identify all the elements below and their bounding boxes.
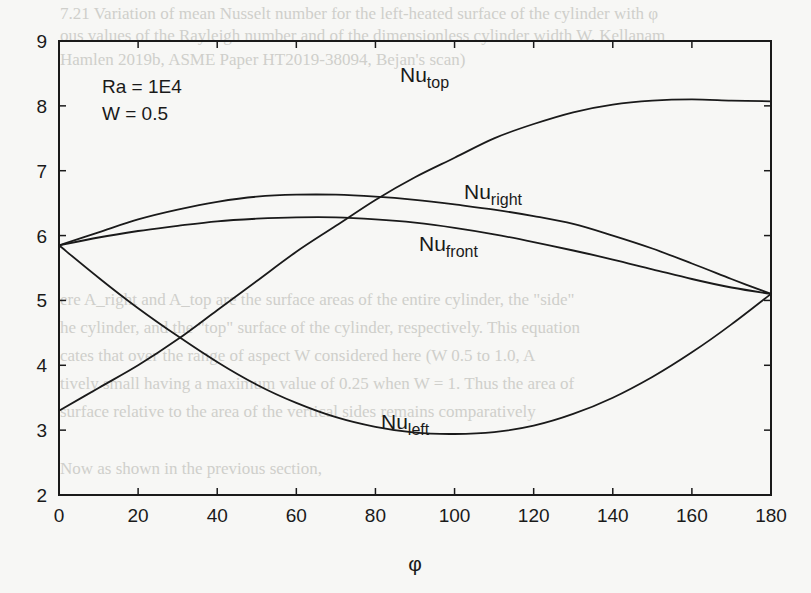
x-tick-label: 100 [439, 505, 471, 526]
y-tick-label: 4 [36, 355, 47, 376]
x-tick-label: 80 [365, 505, 386, 526]
series-label-nu-top: Nutop [400, 63, 449, 91]
series-line-nu-front [59, 217, 771, 294]
y-tick-label: 3 [36, 420, 47, 441]
series-line-nu-left [59, 245, 771, 434]
x-tick-label: 20 [128, 505, 149, 526]
annotation-ra: Ra = 1E4 [102, 76, 182, 97]
annotation-w: W = 0.5 [102, 103, 168, 124]
x-tick-label: 160 [676, 505, 708, 526]
x-tick-label: 140 [597, 505, 629, 526]
y-tick-label: 5 [36, 290, 47, 311]
data-series [59, 99, 771, 434]
nusselt-line-chart: 020406080100120140160180 23456789 NutopN… [0, 0, 811, 593]
series-label-nu-right: Nuright [464, 180, 523, 208]
x-tick-label: 60 [286, 505, 307, 526]
series-line-nu-right [59, 194, 771, 293]
y-tick-label: 2 [36, 485, 47, 506]
series-line-nu-top [59, 99, 771, 410]
x-tick-label: 40 [207, 505, 228, 526]
y-tick-label: 8 [36, 96, 47, 117]
series-label-nu-left: Nuleft [381, 410, 430, 438]
series-labels: NutopNurightNufrontNuleft [381, 63, 523, 438]
x-tick-label: 120 [518, 505, 550, 526]
y-tick-label: 6 [36, 226, 47, 247]
x-tick-label: 180 [755, 505, 787, 526]
y-tick-label: 7 [36, 161, 47, 182]
series-label-nu-front: Nufront [419, 232, 478, 260]
y-tick-label: 9 [36, 31, 47, 52]
x-tick-label: 0 [54, 505, 65, 526]
x-axis-label: φ [408, 552, 422, 575]
